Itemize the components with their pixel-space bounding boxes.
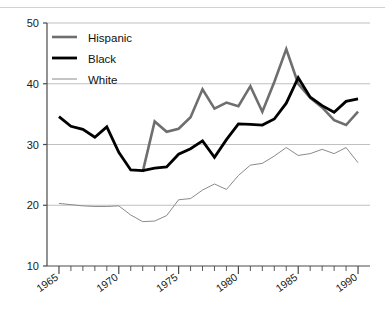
legend-label-hispanic: Hispanic [88, 32, 132, 44]
x-tick-label-1980: 1980 [214, 271, 240, 294]
x-tick-label-1985: 1985 [273, 271, 299, 294]
x-tick-label-1970: 1970 [94, 271, 120, 294]
x-tick-label-1965: 1965 [34, 271, 60, 294]
x-tick-label-1990: 1990 [333, 271, 359, 294]
y-tick-label-10: 10 [27, 260, 39, 272]
y-tick-label-20: 20 [27, 199, 39, 211]
x-axis-tick-labels: 196519701975198019851990 [34, 271, 359, 294]
chart-container: 1020304050 196519701975198019851990 Hisp… [0, 0, 385, 323]
gridlines [47, 23, 370, 205]
series-line-hispanic [143, 49, 358, 172]
x-tick-label-1975: 1975 [154, 271, 180, 294]
x-axis-ticks [59, 266, 358, 274]
y-tick-label-40: 40 [27, 78, 39, 90]
y-tick-label-30: 30 [27, 139, 39, 151]
y-axis-ticks: 1020304050 [27, 17, 47, 272]
line-chart: 1020304050 196519701975198019851990 Hisp… [0, 0, 385, 323]
legend-label-black: Black [88, 53, 116, 65]
legend-label-white: White [88, 74, 117, 86]
series-line-white [59, 148, 358, 222]
y-tick-label-50: 50 [27, 17, 39, 29]
series-line-black [59, 78, 358, 171]
chart-legend: HispanicBlackWhite [52, 32, 132, 86]
